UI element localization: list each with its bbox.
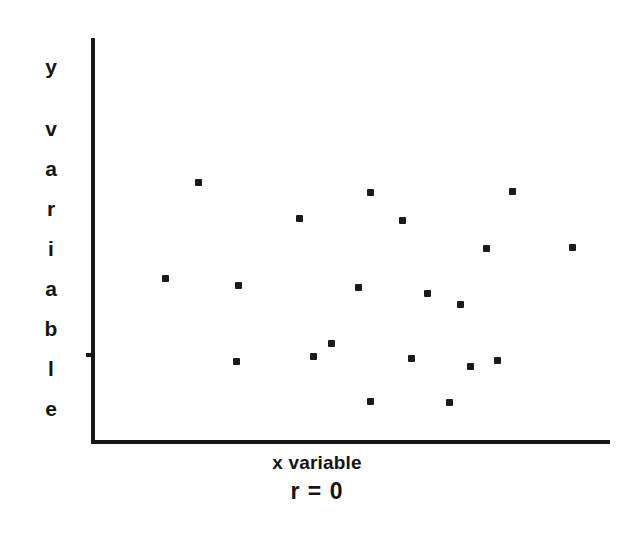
data-point [457,301,464,308]
data-point [367,398,374,405]
x-axis-label: x variable [0,452,634,474]
data-point [483,245,490,252]
data-point [367,189,374,196]
data-point [233,358,240,365]
data-point [424,290,431,297]
data-point [408,355,415,362]
data-point [195,179,202,186]
data-point [446,399,453,406]
data-point [494,357,501,364]
data-point [355,284,362,291]
data-point [467,363,474,370]
data-point [296,215,303,222]
data-point [162,275,169,282]
data-point [310,353,317,360]
data-point [569,244,576,251]
correlation-annotation: r = 0 [0,478,634,505]
data-point [235,282,242,289]
data-point [509,188,516,195]
data-point [399,217,406,224]
data-point [328,340,335,347]
scatter-plot-figure: y v a r i a b l e x variable r = 0 [0,0,634,536]
